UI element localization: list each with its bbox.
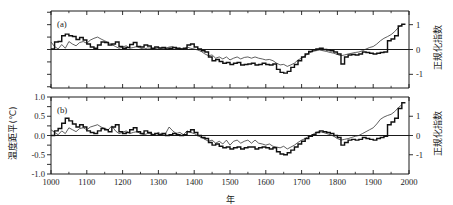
- panel-b-ytick-right-label: 0: [416, 131, 420, 141]
- panel-b-series-thin-smoothed-index: [51, 105, 402, 149]
- x-axis-tick-label: 2000: [400, 177, 417, 187]
- x-axis-tick-label: 1600: [257, 177, 274, 187]
- y-axis-label-right-panel-a: 正规化指数: [432, 25, 443, 70]
- x-axis-tick-label: 1900: [365, 177, 382, 187]
- x-axis-tick-label: 1700: [293, 177, 310, 187]
- panel-a-tag: (a): [57, 19, 67, 29]
- panel-a-ytick-right-label: 0: [416, 45, 420, 55]
- x-axis-tick-label: 1100: [78, 177, 95, 187]
- x-axis-label: 年: [226, 194, 235, 205]
- panel-b-ytick-left-label: 0.5: [34, 111, 45, 121]
- x-axis-tick-label: 1400: [186, 177, 203, 187]
- x-axis-tick-label: 1000: [42, 177, 59, 187]
- panel-b-ytick-right-label: 1: [416, 111, 420, 121]
- x-axis-tick-label: 1200: [114, 177, 131, 187]
- panel-b-ytick-right-label: -1: [416, 150, 423, 160]
- panel-b-ytick-left-label: 1.0: [34, 92, 45, 102]
- panel-a-ytick-right-label: 1: [416, 20, 420, 30]
- panel-b-ytick-left-label: 0.0: [34, 131, 45, 141]
- axis-text-layer: 1000110012001300140015001600170018001900…: [42, 177, 417, 187]
- climate-reconstruction-figure: 10-1 10-11.00.50.0-0.5-1.0 1000110012001…: [0, 0, 453, 205]
- x-axis-tick-label: 1300: [150, 177, 167, 187]
- y-axis-label-right-panel-b: 正规化指数: [432, 111, 443, 156]
- x-axis-tick-label: 1500: [221, 177, 238, 187]
- panel-a-series-thick-reconstruction: [51, 24, 405, 73]
- y-axis-label-left: 温度距平(℃): [7, 106, 18, 159]
- panel-a-series-thin-smoothed-index: [51, 25, 402, 67]
- panel-b-tag: (b): [57, 105, 67, 115]
- panel-a: 10-1: [47, 11, 423, 88]
- figure-root: 10-1 10-11.00.50.0-0.5-1.0 1000110012001…: [0, 0, 453, 205]
- panel-b-ytick-left-label: -0.5: [31, 150, 45, 160]
- panel-b-series-thick-reconstruction: [51, 103, 405, 155]
- x-axis-tick-label: 1800: [329, 177, 346, 187]
- panel-b: 10-11.00.50.0-0.5-1.0: [31, 92, 423, 179]
- panel-a-ytick-right-label: -1: [416, 69, 423, 79]
